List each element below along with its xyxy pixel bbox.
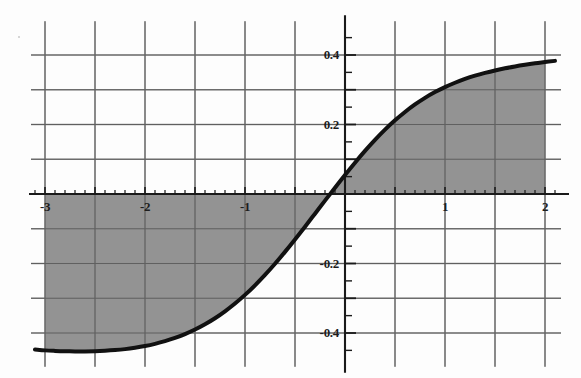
x-axis-tick-label: -2 — [140, 199, 150, 215]
y-axis-tick-label: 0.4 — [297, 47, 339, 63]
x-axis-tick-label: -1 — [240, 199, 250, 215]
x-axis-tick-label: -3 — [40, 199, 50, 215]
x-axis-tick-label: 1 — [442, 199, 448, 215]
chart-figure: -3-2-1120.40.2-0.2-0.4 — [0, 0, 581, 378]
x-axis-tick-label: 2 — [542, 199, 548, 215]
plot-area — [0, 0, 581, 378]
y-axis-tick-label: -0.2 — [297, 256, 339, 272]
y-axis-tick-label: -0.4 — [297, 325, 339, 341]
y-axis-tick-label: 0.2 — [297, 117, 339, 133]
